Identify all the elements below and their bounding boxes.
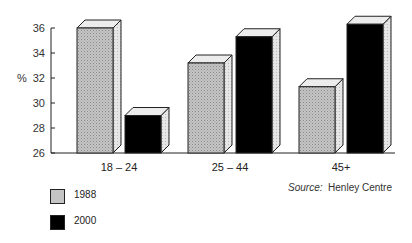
y-tick-label: 30 [33, 97, 45, 109]
bar-2000-0 [125, 108, 169, 154]
y-tick-label: 28 [33, 122, 45, 134]
legend-label-2000: 2000 [74, 215, 96, 226]
bars [77, 16, 391, 153]
y-axis-label: % [17, 72, 27, 84]
bar-1988-1 [188, 55, 232, 153]
source-note: Source: Henley Centre [288, 182, 392, 193]
bar-1988-0 [77, 20, 121, 153]
legend-swatch-1988 [50, 189, 65, 204]
y-tick-label: 26 [33, 147, 45, 159]
y-tick-label: 36 [33, 22, 45, 34]
y-tick-label: 34 [33, 47, 45, 59]
legend-swatch-2000 [50, 215, 65, 230]
x-category-label: 18 – 24 [101, 161, 138, 173]
x-axis-labels: 18 – 2425 – 4445+ [101, 161, 351, 173]
source-value: Henley Centre [328, 182, 392, 193]
source-label: Source: [288, 182, 322, 193]
bar-chart: 262830323436% 18 – 2425 – 4445+ [0, 0, 412, 243]
bar-2000-2 [347, 16, 391, 153]
x-category-label: 25 – 44 [212, 161, 249, 173]
bar-1988-2 [299, 79, 343, 153]
legend-label-1988: 1988 [74, 189, 96, 200]
bar-2000-1 [236, 29, 280, 153]
y-tick-label: 32 [33, 72, 45, 84]
x-category-label: 45+ [332, 161, 351, 173]
